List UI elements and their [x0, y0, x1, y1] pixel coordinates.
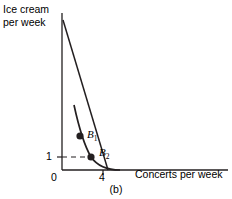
point-b1 [76, 132, 83, 139]
x-axis-label: Concerts per week [135, 168, 223, 180]
y-tick-label-1: 1 [46, 150, 52, 162]
figure-caption: (b) [0, 183, 232, 195]
x-tick-label-4: 4 [99, 171, 105, 183]
figure-panel-b: Ice cream per week B1 B2 1 0 4 Concerts … [0, 0, 232, 199]
point-b2-letter: B [99, 146, 106, 158]
point-b2-label: B2 [99, 146, 109, 161]
point-b1-subscript: 1 [94, 134, 98, 143]
point-b2-subscript: 2 [106, 152, 110, 161]
point-b2 [87, 153, 94, 160]
origin-label: 0 [51, 171, 57, 183]
point-b1-letter: B [87, 128, 94, 140]
point-b1-label: B1 [87, 128, 97, 143]
